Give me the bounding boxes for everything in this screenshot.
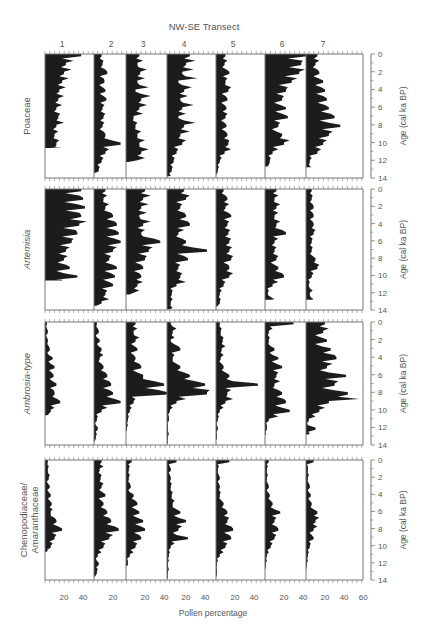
site-label: 6 bbox=[280, 39, 285, 49]
age-tick-label: 0 bbox=[378, 50, 383, 59]
taxon-label: Poaceae bbox=[21, 97, 32, 135]
age-tick-label: 10 bbox=[378, 271, 387, 280]
panel-artemisia: 02468101214Age (cal ka BP)Artemisia bbox=[21, 185, 408, 315]
age-tick-label: 10 bbox=[378, 139, 387, 148]
site-label: 7 bbox=[321, 39, 326, 49]
age-tick-label: 0 bbox=[378, 456, 383, 465]
pct-tick-label: 20 bbox=[321, 593, 330, 602]
site-7-profile bbox=[306, 460, 319, 569]
site-2-profile bbox=[94, 460, 119, 577]
site-6-profile bbox=[265, 322, 294, 434]
panel-ambrosia-type: 02468101214Age (cal ka BP)Ambrosia-type bbox=[21, 318, 408, 450]
site-5-profile bbox=[216, 189, 233, 307]
pct-tick-label: 20 bbox=[182, 593, 191, 602]
pct-tick-label: 40 bbox=[250, 593, 259, 602]
age-tick-label: 12 bbox=[378, 559, 387, 568]
age-tick-label: 2 bbox=[378, 336, 383, 345]
site-2-profile bbox=[94, 189, 121, 306]
pct-tick-label: 40 bbox=[340, 593, 349, 602]
age-tick-label: 10 bbox=[378, 406, 387, 415]
pct-tick-label: 20 bbox=[280, 593, 289, 602]
site-2-profile bbox=[94, 54, 121, 173]
age-tick-label: 14 bbox=[378, 441, 387, 450]
site-7-profile bbox=[306, 322, 359, 434]
pollen-diagram: NW-SE Transect 1234567 02468101214Age (c… bbox=[0, 0, 427, 640]
age-tick-label: 8 bbox=[378, 388, 383, 397]
site-5-profile bbox=[216, 460, 233, 577]
site-5-profile bbox=[216, 54, 231, 174]
x-axis-title: Pollen percentage bbox=[179, 608, 248, 618]
site-4-profile bbox=[167, 54, 197, 176]
site-3-profile bbox=[126, 460, 145, 566]
age-axis-label: Age (cal ka BP) bbox=[398, 86, 408, 145]
age-tick-label: 8 bbox=[378, 254, 383, 263]
site-3-profile bbox=[126, 322, 168, 431]
site-7-profile bbox=[306, 54, 340, 167]
age-tick-label: 8 bbox=[378, 121, 383, 130]
taxon-label: Amaranthaceae bbox=[29, 486, 40, 553]
site-1-profile bbox=[45, 54, 81, 148]
site-3-profile bbox=[126, 189, 160, 294]
site-5-profile bbox=[216, 322, 258, 440]
age-tick-label: 6 bbox=[378, 371, 383, 380]
age-tick-label: 14 bbox=[378, 306, 387, 315]
site-labels: 1234567 bbox=[60, 39, 326, 49]
age-tick-label: 6 bbox=[378, 507, 383, 516]
pct-tick-label: 40 bbox=[201, 593, 210, 602]
site-label: 4 bbox=[182, 39, 187, 49]
pct-tick-label: 40 bbox=[160, 593, 169, 602]
pct-tick-label: 40 bbox=[299, 593, 308, 602]
age-tick-label: 4 bbox=[378, 353, 383, 362]
age-axis-label: Age (cal ka BP) bbox=[398, 220, 408, 279]
pct-tick-label: 20 bbox=[60, 593, 69, 602]
taxon-label: Artemisia bbox=[21, 230, 32, 271]
age-tick-label: 14 bbox=[378, 174, 387, 183]
site-4-profile bbox=[167, 189, 207, 309]
pct-tick-label: 20 bbox=[109, 593, 118, 602]
site-1-profile bbox=[45, 189, 87, 281]
site-6-profile bbox=[265, 189, 286, 300]
age-tick-label: 12 bbox=[378, 156, 387, 165]
panel-chenopodiaceae-amaranthaceae: 02468101214Age (cal ka BP)Chenopodiaceae… bbox=[18, 456, 408, 585]
site-6-profile bbox=[265, 460, 280, 569]
site-label: 3 bbox=[141, 39, 146, 49]
age-tick-label: 4 bbox=[378, 220, 383, 229]
age-tick-label: 0 bbox=[378, 318, 383, 327]
site-1-profile bbox=[45, 460, 62, 552]
site-label: 2 bbox=[109, 39, 114, 49]
age-tick-label: 2 bbox=[378, 473, 383, 482]
site-4-profile bbox=[167, 322, 210, 443]
site-1-profile bbox=[45, 322, 60, 415]
age-tick-label: 2 bbox=[378, 68, 383, 77]
panels: 02468101214Age (cal ka BP)Poaceae0246810… bbox=[18, 50, 408, 585]
age-tick-label: 14 bbox=[378, 576, 387, 585]
pct-tick-label: 20 bbox=[141, 593, 150, 602]
age-tick-label: 2 bbox=[378, 202, 383, 211]
site-label: 5 bbox=[231, 39, 236, 49]
taxon-label: Ambrosia-type bbox=[21, 353, 32, 415]
site-3-profile bbox=[126, 54, 151, 162]
site-6-profile bbox=[265, 54, 307, 166]
age-tick-label: 12 bbox=[378, 423, 387, 432]
age-tick-label: 0 bbox=[378, 185, 383, 194]
age-axis-label: Age (cal ka BP) bbox=[398, 354, 408, 413]
age-tick-label: 6 bbox=[378, 103, 383, 112]
age-tick-label: 4 bbox=[378, 85, 383, 94]
site-2-profile bbox=[94, 322, 121, 441]
age-axis-label: Age (cal ka BP) bbox=[398, 490, 408, 549]
age-tick-label: 8 bbox=[378, 525, 383, 534]
age-tick-label: 12 bbox=[378, 289, 387, 298]
pct-tick-label: 60 bbox=[359, 593, 368, 602]
pct-tick-label: 20 bbox=[231, 593, 240, 602]
taxon-label: Chenopodiaceae/ bbox=[18, 482, 29, 557]
age-tick-label: 4 bbox=[378, 490, 383, 499]
site-7-profile bbox=[306, 189, 319, 300]
pct-tick-label: 40 bbox=[79, 593, 88, 602]
site-label: 1 bbox=[60, 39, 65, 49]
bottom-axis: 2040202040204020402040204060 bbox=[60, 593, 369, 602]
panel-poaceae: 02468101214Age (cal ka BP)Poaceae bbox=[21, 50, 408, 183]
chart-title: NW-SE Transect bbox=[169, 21, 240, 32]
site-4-profile bbox=[167, 460, 188, 578]
age-tick-label: 6 bbox=[378, 237, 383, 246]
age-tick-label: 10 bbox=[378, 542, 387, 551]
